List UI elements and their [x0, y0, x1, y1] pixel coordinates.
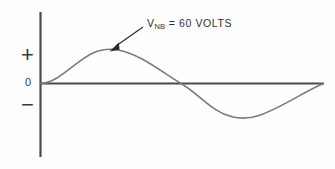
axis-label-positive: +: [21, 44, 34, 66]
axis-label-zero: 0: [25, 77, 31, 88]
annotation-subscript: NB: [154, 22, 165, 31]
annotation-value: 60: [179, 17, 192, 29]
axis-label-negative: −: [21, 94, 34, 116]
waveform-annotation-label: VNB = 60 VOLTS: [147, 17, 232, 29]
annotation-equals-sign: =: [169, 17, 176, 29]
annotation-unit: VOLTS: [195, 17, 232, 29]
annotation-leader-line: [116, 27, 143, 46]
waveform-figure: + 0 − VNB = 60 VOLTS: [0, 0, 335, 169]
